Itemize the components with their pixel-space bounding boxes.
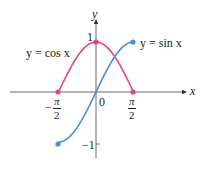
pi-numerator: π [128, 96, 136, 109]
two-denominator: 2 [53, 109, 61, 121]
cos-series-label: y = cos x [26, 47, 70, 59]
sin-endpoint-left [55, 141, 60, 146]
x-axis-label: x [190, 85, 195, 97]
x-tick-neg-pi-half: π 2 [53, 96, 61, 121]
x-tick-pi-half: π 2 [128, 96, 136, 121]
chart: y x 0 1 −1 − π 2 π 2 y = cos x y = sin x [0, 0, 209, 173]
cos-peak-point [93, 39, 98, 44]
pi-numerator: π [53, 96, 61, 109]
y-tick-neg-one-label: −1 [82, 139, 95, 151]
sin-series-label: y = sin x [140, 37, 182, 49]
cos-endpoint-left [55, 89, 60, 94]
two-denominator: 2 [128, 109, 136, 121]
plot-area [0, 0, 209, 173]
sin-endpoint-right [130, 39, 135, 44]
y-tick-one-label: 1 [87, 31, 93, 43]
cos-endpoint-right [130, 89, 135, 94]
origin-label: 0 [99, 96, 105, 108]
x-tick-neg-pi-half-sign: − [45, 101, 52, 113]
y-axis-label: y [92, 8, 97, 20]
